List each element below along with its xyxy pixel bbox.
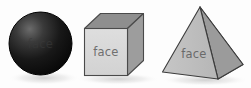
cube-face-label: face — [93, 45, 118, 59]
pyramid-face-label: face — [181, 47, 206, 61]
sphere-face-label: face — [28, 37, 53, 51]
sphere-shape: face — [9, 12, 72, 75]
cube-shape: face — [85, 14, 144, 76]
pyramid-shape: face — [163, 7, 244, 79]
shapes-illustration: face face face — [0, 0, 251, 88]
shapes-canvas: face face face — [0, 0, 251, 88]
